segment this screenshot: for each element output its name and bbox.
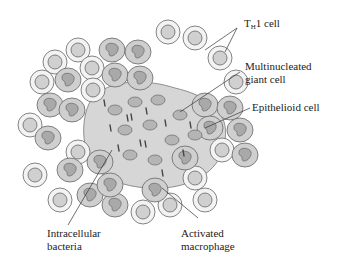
multinucleated-label-2: giant cell: [245, 73, 286, 85]
bacteria-label-1: Intracellular: [47, 227, 101, 239]
th1-rest: 1 cell: [256, 17, 280, 29]
bacteria-label-2: bacteria: [47, 240, 82, 252]
th1-cell-label: TH1 cell: [244, 17, 280, 33]
th1-main: T: [244, 17, 251, 29]
granuloma-illustration: [0, 0, 340, 256]
epithelioid-label: Epithelioid cell: [252, 101, 320, 113]
macrophage-label-1: Activated: [181, 227, 224, 239]
macrophage-label-2: macrophage: [181, 240, 235, 252]
multinucleated-label-1: Multinucleated: [245, 60, 312, 72]
